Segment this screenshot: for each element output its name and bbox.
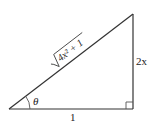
- base-label: 1: [70, 111, 76, 123]
- angle-arc: [26, 96, 30, 109]
- hypotenuse-radicand: 4x² + 1: [55, 37, 85, 63]
- hypotenuse-side: [9, 14, 133, 109]
- angle-label: θ: [33, 95, 39, 107]
- right-angle-marker: [126, 102, 133, 109]
- vertical-side-label: 2x: [136, 55, 148, 67]
- triangle-diagram: θ 1 2x 4x² + 1: [0, 0, 157, 124]
